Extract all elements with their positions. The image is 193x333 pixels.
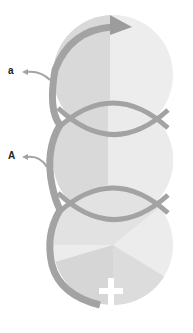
label-a-arrow-icon [22, 69, 28, 75]
circle-loop-diagram [0, 0, 193, 333]
label-A-connector [26, 157, 47, 167]
label-A-arrow-icon [22, 154, 28, 160]
label-A: A [8, 150, 15, 161]
label-a: a [8, 65, 14, 76]
label-a-connector [26, 72, 50, 80]
